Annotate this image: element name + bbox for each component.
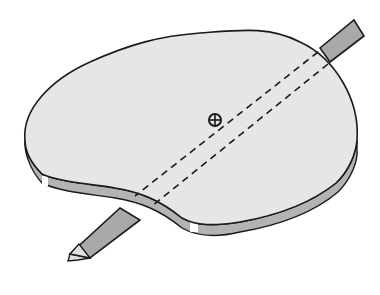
lamina-axis-diagram [0,0,380,295]
axis-rod-lower [68,208,140,261]
axis-rod-upper [320,20,364,62]
center-of-mass-icon [209,114,221,126]
edge-highlight [42,176,48,186]
